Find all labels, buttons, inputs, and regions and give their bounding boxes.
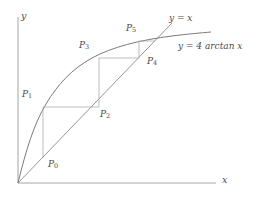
arctan-curve-label: y = 4 arctan x [178, 42, 242, 51]
point-label-p5: P5 [126, 24, 136, 34]
identity-line [18, 23, 172, 183]
x-axis-label: x [222, 175, 227, 185]
point-label-p3: P3 [79, 41, 89, 51]
y-axis-label: y [21, 11, 26, 21]
arctan-curve [18, 32, 211, 183]
point-label-p0: P0 [48, 160, 58, 170]
point-label-p2: P2 [100, 110, 110, 120]
point-label-p1: P1 [22, 90, 32, 100]
point-label-p4: P4 [147, 57, 157, 67]
arctan-cobweb-figure: y x y = x y = 4 arctan x P0 P1 P2 P3 P4 … [0, 0, 257, 200]
identity-line-label: y = x [169, 14, 192, 23]
